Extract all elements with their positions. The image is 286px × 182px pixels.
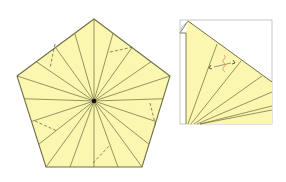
folded-detail-view: [180, 20, 272, 124]
pentagon-crease-pattern: [17, 19, 170, 167]
center-point-icon: [92, 99, 97, 104]
origami-diagram-canvas: [0, 0, 286, 182]
pentagon-paper: [17, 19, 170, 167]
crease-pattern-diagram: [0, 0, 286, 182]
